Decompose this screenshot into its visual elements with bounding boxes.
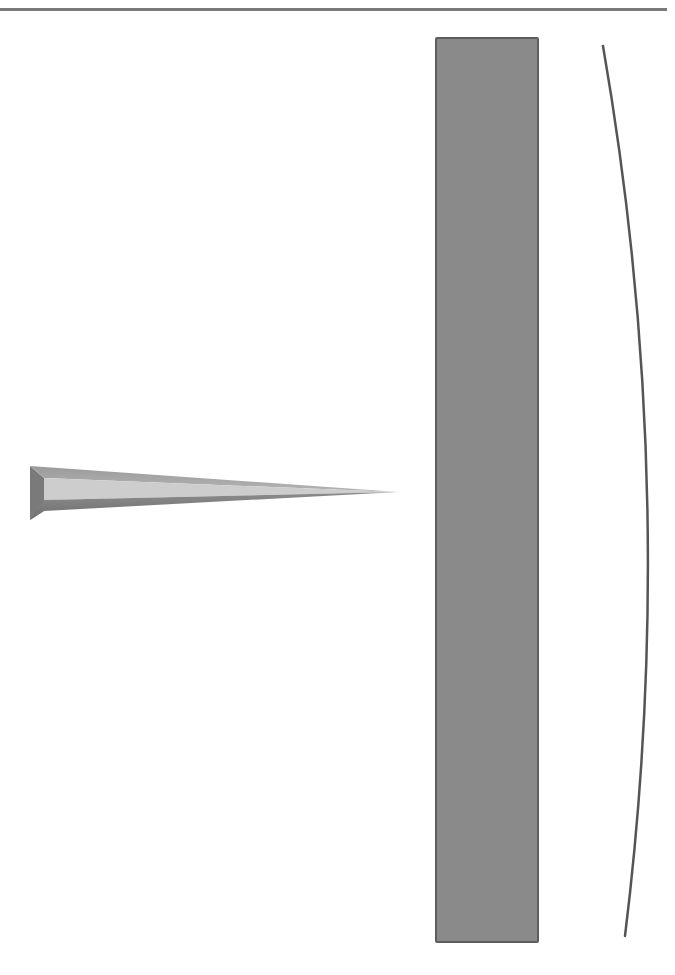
curved-line — [603, 46, 648, 936]
curve-canvas — [0, 0, 675, 975]
